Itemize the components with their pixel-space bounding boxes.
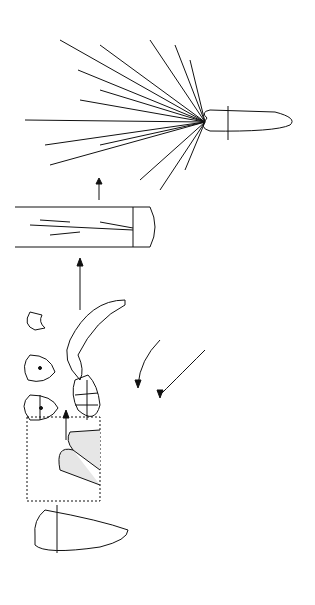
flowering-plant-stems bbox=[25, 40, 205, 190]
embryoid bbox=[67, 300, 125, 380]
free-cell-cluster bbox=[73, 375, 100, 420]
diagram bbox=[0, 0, 315, 605]
diagram-drawing bbox=[0, 0, 315, 605]
flowering-plant-root-shape bbox=[203, 110, 292, 131]
culture-tube bbox=[15, 207, 155, 247]
storage-root bbox=[35, 510, 128, 551]
